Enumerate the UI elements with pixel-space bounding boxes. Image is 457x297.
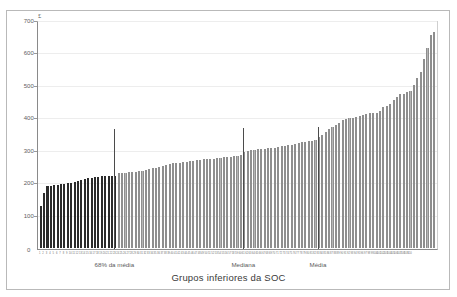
bar xyxy=(376,113,378,248)
bar xyxy=(430,35,432,248)
y-axis-tick-mark xyxy=(34,86,37,87)
bar xyxy=(274,148,276,248)
bar xyxy=(148,169,150,248)
bar xyxy=(104,176,106,248)
bar xyxy=(101,176,103,248)
bar xyxy=(152,168,154,248)
y-axis-tick-label: 500 xyxy=(10,83,34,89)
x-axis-tick-label: 10 xyxy=(69,251,72,257)
bar xyxy=(155,168,157,248)
bar xyxy=(247,151,249,248)
y-axis-tick-label: 300 xyxy=(10,148,34,154)
x-axis-tick-labels: 1234567891011121314151617181920212223242… xyxy=(38,251,438,257)
bar xyxy=(138,171,140,248)
bar xyxy=(162,166,164,248)
bar xyxy=(124,173,126,248)
bar xyxy=(203,159,205,248)
bar xyxy=(423,59,425,248)
reference-line xyxy=(114,129,115,249)
bar xyxy=(325,132,327,248)
bar xyxy=(135,172,137,249)
y-axis-tick-mark xyxy=(34,151,37,152)
bar xyxy=(389,104,391,248)
y-axis-tick-label: 700 xyxy=(10,18,34,24)
bar xyxy=(199,160,201,248)
bar xyxy=(169,164,171,248)
bar xyxy=(311,141,313,248)
bar xyxy=(145,170,147,248)
bar xyxy=(63,184,65,248)
bar xyxy=(226,157,228,248)
x-axis-tick-label: 4 xyxy=(49,251,50,257)
y-axis-tick-label: 400 xyxy=(10,115,34,121)
bar xyxy=(301,142,303,248)
bar xyxy=(108,176,110,248)
x-axis-tick-label: 1 xyxy=(39,251,40,257)
bar xyxy=(352,118,354,248)
bar xyxy=(365,114,367,248)
bar xyxy=(87,178,89,248)
bar xyxy=(393,100,395,248)
bar xyxy=(359,116,361,248)
bar xyxy=(111,176,113,248)
x-axis-tick-label: 110 xyxy=(407,251,411,257)
chart-figure: £ 100200300400500600700 0 12345678910111… xyxy=(0,0,457,297)
bar xyxy=(362,115,364,248)
bar xyxy=(342,120,344,248)
bar xyxy=(277,147,279,248)
bar xyxy=(426,48,428,248)
bar xyxy=(396,97,398,248)
bar xyxy=(348,118,350,248)
bar xyxy=(230,157,232,248)
bar xyxy=(250,150,252,248)
bar xyxy=(399,94,401,248)
bar xyxy=(158,167,160,248)
reference-line-label: Mediana xyxy=(231,261,255,268)
bar xyxy=(260,149,262,248)
bar xyxy=(67,183,69,248)
x-axis-tick-label: 9 xyxy=(66,251,67,257)
bar xyxy=(291,145,293,249)
bar xyxy=(233,156,235,248)
x-axis-tick-label: 7 xyxy=(59,251,60,257)
bar xyxy=(270,148,272,248)
bar xyxy=(372,113,374,248)
bar xyxy=(94,177,96,248)
reference-line xyxy=(318,127,319,249)
bar xyxy=(165,165,167,248)
reference-line-label: 68% da média xyxy=(95,261,135,268)
y-axis-tick-label: 600 xyxy=(10,50,34,56)
bar xyxy=(304,142,306,248)
bar xyxy=(213,159,215,248)
y-axis-tick-mark xyxy=(34,53,37,54)
bar xyxy=(223,157,225,248)
bar xyxy=(179,163,181,249)
bar xyxy=(118,173,120,248)
bar xyxy=(131,172,133,248)
bar xyxy=(74,182,76,248)
bar xyxy=(406,92,408,248)
bar xyxy=(128,172,130,248)
reference-line xyxy=(243,128,244,249)
bar xyxy=(240,155,242,248)
x-axis-tick-label: 6 xyxy=(56,251,57,257)
bar xyxy=(294,144,296,248)
bar xyxy=(97,177,99,248)
bar xyxy=(70,183,72,248)
bar xyxy=(338,123,340,248)
bar xyxy=(267,148,269,248)
x-axis-tick-label: 3 xyxy=(46,251,47,257)
bar xyxy=(206,159,208,248)
bar xyxy=(60,184,62,248)
bar xyxy=(382,107,384,248)
bar xyxy=(379,111,381,248)
y-axis-tick-mark xyxy=(34,118,37,119)
bar xyxy=(420,72,422,248)
bar xyxy=(121,173,123,248)
bar xyxy=(321,135,323,248)
bar xyxy=(172,163,174,248)
bar xyxy=(369,113,371,248)
bar xyxy=(46,186,48,248)
x-axis-title: Grupos inferiores da SOC xyxy=(0,272,457,283)
bar xyxy=(77,181,79,248)
